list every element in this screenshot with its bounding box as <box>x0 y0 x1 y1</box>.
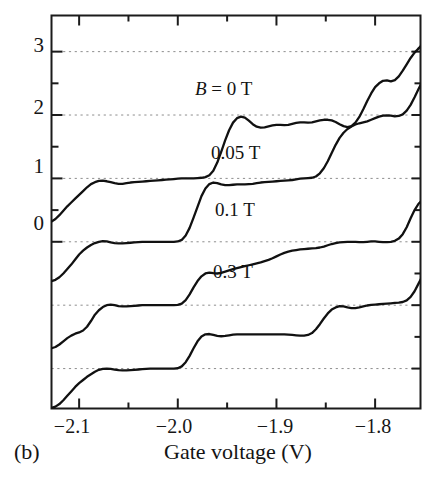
ytick-label-2: 2 <box>14 97 44 118</box>
xtick-label-minus-1-8: −1.8 <box>333 416 413 436</box>
panel-label: (b) <box>14 440 40 464</box>
curve-0-3-t <box>52 266 431 408</box>
xtick-label-minus-2-1: −2.1 <box>32 416 112 436</box>
ytick-label-1: 1 <box>14 156 44 177</box>
xtick-label-minus-2-0: −2.0 <box>134 416 214 436</box>
series-label-b0-value: = 0 T <box>207 78 253 99</box>
conductance-plot <box>0 0 446 478</box>
figure-panel-b: 3 2 1 0 −2.1 −2.0 −1.9 −1.8 B = 0 T 0.05… <box>0 0 446 478</box>
x-axis-title: Gate voltage (V) <box>113 440 363 464</box>
curve-b-0-t <box>52 48 419 221</box>
curve-0-05-t <box>52 71 431 281</box>
series-label-b03: 0.3 T <box>213 262 253 281</box>
ytick-label-0: 0 <box>14 213 44 234</box>
series-label-b0: B = 0 T <box>195 79 252 98</box>
series-label-b005: 0.05 T <box>211 143 260 162</box>
series-label-b0-symbol: B <box>195 78 207 99</box>
ytick-label-3: 3 <box>14 35 44 56</box>
xtick-label-minus-1-9: −1.9 <box>235 416 315 436</box>
series-label-b01: 0.1 T <box>215 200 255 219</box>
